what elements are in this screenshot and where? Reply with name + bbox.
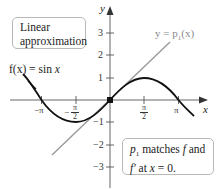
y-tick-neg1: −1 [93, 116, 104, 127]
x-tick-half-pi: π2 [139, 104, 149, 121]
box-title-line1: Linear [20, 20, 85, 34]
tangency-point-marker [107, 97, 113, 103]
y-tick-3: 3 [98, 27, 103, 38]
y-tick-1: 1 [98, 72, 103, 83]
y-tick-2: 2 [98, 49, 103, 60]
p1-line-label: y = p1(x) [155, 27, 194, 42]
x-axis-label: x [203, 103, 208, 115]
y-tick-neg2: −2 [93, 139, 104, 150]
x-tick-pi: π [174, 105, 179, 115]
p1-matches-box: p1 matches f and f′ at x = 0. [122, 138, 214, 175]
box2-line1: p1 matches f and [130, 142, 213, 161]
y-axis-label: y [100, 2, 105, 14]
f-function-label: f(x) = sin x [9, 63, 60, 75]
y-tick-neg3: −3 [93, 161, 104, 172]
f-label-pointer [28, 81, 36, 89]
linear-approximation-box: Linear approximation [12, 17, 86, 49]
box-title-line2: approximation [20, 34, 85, 48]
y-axis-arrow-icon [107, 6, 114, 15]
box2-line2: f′ at x = 0. [130, 161, 213, 175]
x-tick-neg-pi: −π [34, 105, 44, 115]
